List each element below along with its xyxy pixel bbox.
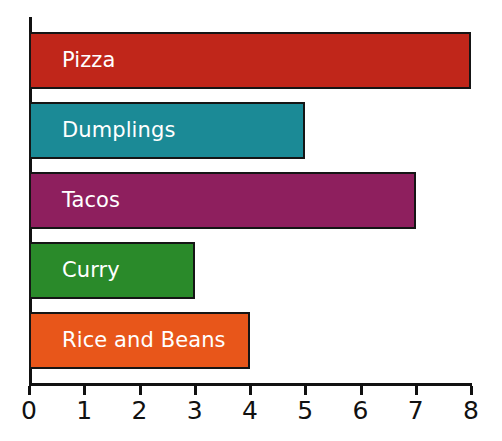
bar-label: Tacos (62, 172, 120, 229)
bar-row[interactable]: Dumplings (29, 102, 305, 159)
x-tick-mark (139, 386, 142, 395)
x-tick-mark (360, 386, 363, 395)
x-tick-mark (28, 386, 31, 395)
x-tick-label: 0 (9, 396, 49, 425)
x-tick-label: 7 (396, 396, 436, 425)
x-tick-label: 8 (451, 396, 491, 425)
x-tick-mark (470, 386, 473, 395)
bar-label: Pizza (62, 32, 115, 89)
bar-row[interactable]: Pizza (29, 32, 471, 89)
bar-label: Curry (62, 242, 120, 299)
x-tick-mark (194, 386, 197, 395)
x-tick-mark (249, 386, 252, 395)
x-tick-mark (415, 386, 418, 395)
bar-row[interactable]: Tacos (29, 172, 416, 229)
x-tick-mark (83, 386, 86, 395)
x-tick-label: 4 (230, 396, 270, 425)
x-tick-label: 1 (64, 396, 104, 425)
bar-label: Dumplings (62, 102, 175, 159)
x-tick-label: 2 (120, 396, 160, 425)
x-tick-label: 3 (175, 396, 215, 425)
bar-row[interactable]: Curry (29, 242, 195, 299)
bar-label: Rice and Beans (62, 312, 226, 369)
x-tick-label: 6 (341, 396, 381, 425)
bar-row[interactable]: Rice and Beans (29, 312, 250, 369)
plot-area: PizzaDumplingsTacosCurryRice and Beans (29, 17, 502, 385)
bar-chart: PizzaDumplingsTacosCurryRice and Beans 0… (0, 0, 502, 441)
x-tick-mark (304, 386, 307, 395)
x-tick-label: 5 (285, 396, 325, 425)
